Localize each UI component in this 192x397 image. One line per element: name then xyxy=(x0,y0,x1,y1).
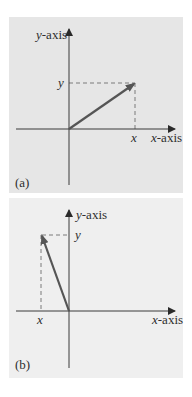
panel-b-y-axis-label: y-axis xyxy=(74,207,107,222)
panel-b-x-component-label: x xyxy=(36,312,43,327)
panel-a-background xyxy=(9,17,183,193)
vector-components-figure: y-axis y x x-axis (a) y-axis y x x-axis … xyxy=(0,0,192,397)
panel-a-y-axis-label: y-axis xyxy=(34,27,67,42)
panel-b-background xyxy=(9,198,183,378)
panel-a: y-axis y x x-axis (a) xyxy=(9,17,183,193)
panel-b: y-axis y x x-axis (b) xyxy=(9,198,183,378)
panel-a-y-component-label: y xyxy=(56,75,64,90)
panel-b-y-component-label: y xyxy=(73,227,81,242)
panel-b-x-axis-label: x-axis xyxy=(151,312,183,327)
panel-a-caption: (a) xyxy=(15,175,29,190)
panel-a-x-component-label: x xyxy=(130,130,137,145)
panel-a-x-axis-label: x-axis xyxy=(150,130,182,145)
panel-b-caption: (b) xyxy=(15,357,30,372)
